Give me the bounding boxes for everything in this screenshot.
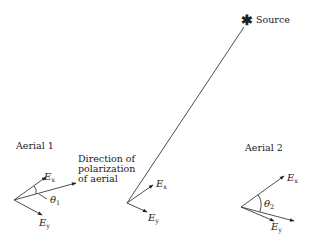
aerial-2-label: Aerial 2 <box>244 142 283 153</box>
aerial-2: Aerial 2 Ex Ey θ2 <box>241 142 298 234</box>
source: ✱ Source <box>241 12 290 28</box>
ey-arrow <box>127 203 147 212</box>
ex-label: Ex <box>43 171 55 184</box>
ex-arrow <box>14 177 46 200</box>
ey-label: Ey <box>270 221 282 234</box>
note-line-3: of aerial <box>78 173 118 184</box>
center-vectors: Ex Ey <box>127 178 167 225</box>
polarization-arrow <box>241 207 294 221</box>
ex-arrow <box>241 176 284 207</box>
theta-2-label: θ2 <box>264 198 274 211</box>
asterisk-star-icon: ✱ <box>241 12 253 28</box>
theta-1-arc <box>34 186 36 194</box>
ey-arrow <box>14 200 42 215</box>
ey-label: Ey <box>147 212 159 225</box>
ex-arrow <box>127 185 153 203</box>
polarization-note: Direction of polarization of aerial <box>78 153 137 184</box>
theta-1-label: θ1 <box>50 194 60 207</box>
aerial-1: Aerial 1 Ex Ey θ1 <box>14 140 76 230</box>
aerial-1-label: Aerial 1 <box>15 140 54 151</box>
theta-1-leader <box>39 194 47 199</box>
theta-2-arc <box>258 195 261 212</box>
polarization-diagram: ✱ Source Ex Ey Aerial 1 Ex Ey θ1 Directi… <box>0 0 312 245</box>
source-label: Source <box>256 14 290 25</box>
ey-label: Ey <box>38 217 50 230</box>
propagation-ray <box>127 27 244 203</box>
ex-label: Ex <box>286 172 298 185</box>
ex-label: Ex <box>155 178 167 191</box>
